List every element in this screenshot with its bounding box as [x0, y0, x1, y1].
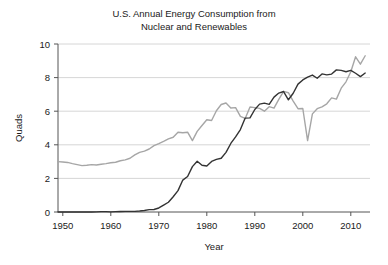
- x-axis-title: Year: [204, 241, 223, 252]
- chart-figure: U.S. Annual Energy Consumption from Nucl…: [0, 0, 388, 265]
- x-tick-label: 1980: [196, 220, 217, 231]
- series-line-renewables: [58, 56, 365, 166]
- y-tick-label: 0: [45, 207, 50, 218]
- gridline-group: [58, 44, 370, 178]
- x-tick-label: 1970: [148, 220, 169, 231]
- x-tick-label: 1950: [52, 220, 73, 231]
- y-axis-title: Quads: [13, 114, 24, 142]
- x-tick-label: 1960: [100, 220, 121, 231]
- x-tick-label: 2010: [340, 220, 361, 231]
- y-tick-label: 10: [39, 39, 50, 50]
- x-tick-label: 2000: [292, 220, 313, 231]
- series-line-nuclear: [58, 70, 365, 212]
- y-tick-label: 6: [45, 106, 50, 117]
- tick-label-group: 02468101950196019701980199020002010: [39, 39, 361, 232]
- line-chart-plot: 02468101950196019701980199020002010 Quad…: [0, 0, 388, 265]
- axis-group: [58, 44, 370, 212]
- x-tick-label: 1990: [244, 220, 265, 231]
- y-tick-label: 8: [45, 72, 50, 83]
- data-series-group: [58, 56, 365, 212]
- y-tick-label: 2: [45, 173, 50, 184]
- y-tick-label: 4: [45, 139, 50, 150]
